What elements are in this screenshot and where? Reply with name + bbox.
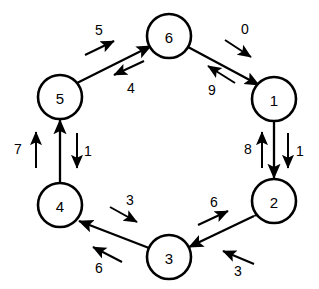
edge-line-3-4 (79, 221, 149, 248)
direction-arrow-5 (85, 41, 114, 55)
weight-label-3-to-4: 6 (95, 260, 103, 276)
cycle-graph-figure: 6 1 2 3 4 5 (0, 0, 319, 289)
weight-label-1-to-2: 1 (296, 143, 304, 159)
node-label-1: 1 (270, 92, 278, 109)
direction-arrow-6-bottom-right (198, 211, 228, 225)
direction-arrow-9 (208, 66, 235, 83)
weight-label-3-to-2: 6 (210, 194, 218, 210)
direction-arrow-0 (225, 40, 251, 57)
weight-label-4-to-3: 3 (126, 192, 134, 208)
weight-label-2-to-1: 8 (244, 141, 252, 157)
node-4[interactable]: 4 (38, 183, 82, 227)
node-2[interactable]: 2 (252, 179, 296, 223)
weight-label-6-to-5: 4 (127, 80, 135, 96)
node-3[interactable]: 3 (147, 235, 191, 279)
weight-label-4-to-5: 7 (14, 141, 22, 157)
node-5[interactable]: 5 (38, 75, 82, 119)
direction-arrow-3-top (110, 207, 137, 222)
node-label-5: 5 (56, 90, 64, 107)
weight-label-6-to-1: 0 (241, 21, 249, 37)
weight-label-5-to-4: 1 (84, 143, 92, 159)
edge-line-5-6 (77, 46, 151, 83)
node-6[interactable]: 6 (147, 14, 191, 58)
node-1[interactable]: 1 (252, 77, 296, 121)
node-label-6: 6 (165, 29, 173, 46)
weight-label-5-to-6: 5 (95, 22, 103, 38)
node-label-2: 2 (270, 194, 278, 211)
weight-label-1-to-6: 9 (208, 82, 216, 98)
edge-line-2-3 (189, 216, 254, 247)
edges-group (60, 46, 274, 248)
weight-label-2-to-3: 3 (234, 263, 242, 279)
edge-line-6-1 (188, 47, 259, 85)
node-label-3: 3 (165, 250, 173, 267)
graph-canvas: 6 1 2 3 4 5 (0, 0, 319, 289)
node-label-4: 4 (56, 198, 64, 215)
